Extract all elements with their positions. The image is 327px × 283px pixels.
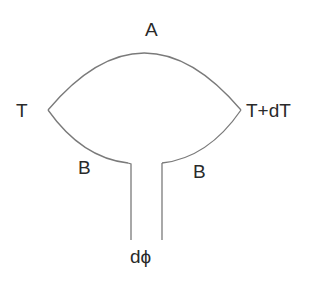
label-a: A — [145, 20, 158, 39]
label-b-right: B — [193, 162, 206, 181]
lens-diagram — [0, 0, 327, 283]
lower-right-arc-b — [162, 110, 241, 163]
left-stem — [128, 163, 131, 240]
label-b-left: B — [78, 158, 91, 177]
upper-arc-a — [48, 53, 241, 110]
label-dphi: dϕ — [130, 247, 151, 266]
label-t-plus-dt: T+dT — [246, 101, 291, 120]
label-t: T — [16, 101, 28, 120]
lower-left-arc-b — [48, 110, 128, 163]
